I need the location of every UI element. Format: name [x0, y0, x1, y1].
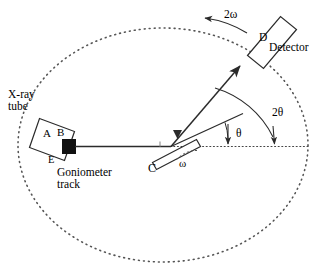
two-omega-label: 2ω — [224, 8, 237, 20]
diffracted-beam — [171, 66, 240, 147]
detector-label: Detector — [269, 41, 309, 53]
point-e-label: E — [48, 154, 54, 165]
xray-tube-label: X-ray tube — [8, 88, 35, 112]
goniometer-track-label: Goniometer track — [57, 166, 112, 190]
point-b-label: B — [57, 127, 64, 139]
omega-label: ω — [179, 158, 186, 170]
two-theta-arrow — [273, 126, 275, 144]
theta-label: θ — [236, 127, 242, 139]
point-a-label: A — [43, 128, 51, 140]
two-theta-arc — [215, 88, 273, 137]
focal-spot-marker — [62, 139, 76, 154]
detector-d-label: D — [259, 31, 267, 43]
sample-c-label: C — [148, 162, 156, 175]
two-omega-arc — [205, 18, 247, 33]
xrd-goniometer-diagram: X-ray tube A B E Goniometer track C ω θ … — [0, 0, 325, 265]
two-theta-label: 2θ — [272, 106, 283, 118]
